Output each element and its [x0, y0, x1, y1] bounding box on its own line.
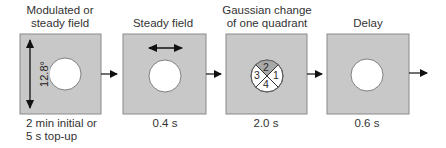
stage-1-box: [20, 34, 101, 114]
quadrant-2-label: 2: [263, 62, 269, 73]
stimulus-circle: [149, 60, 181, 92]
stage-3-duration-line-1: 2.0 s: [216, 117, 316, 130]
stimulus-circle: [49, 58, 81, 90]
field-size-label: 12.8°: [38, 58, 50, 90]
stage-1-duration-line-2: 5 s top-up: [26, 130, 126, 143]
quadrant-4-label: 4: [263, 79, 269, 90]
stage-1-duration: 2 min initial or 5 s top-up: [26, 117, 126, 143]
stage-3-box: [226, 34, 307, 114]
stage-4-duration: 0.6 s: [317, 117, 417, 130]
stage-4-box: [327, 34, 409, 114]
quadrant-1-label: 1: [273, 70, 279, 81]
stage-2-duration-line-1: 0.4 s: [115, 117, 215, 130]
stage-2-box: [123, 34, 206, 114]
stage-4-duration-line-1: 0.6 s: [317, 117, 417, 130]
stage-3-duration: 2.0 s: [216, 117, 316, 130]
quadrant-3-label: 3: [254, 70, 260, 81]
stimulus-circle: [351, 59, 383, 91]
stage-1-duration-line-1: 2 min initial or: [26, 117, 126, 130]
stage-2-duration: 0.4 s: [115, 117, 215, 130]
